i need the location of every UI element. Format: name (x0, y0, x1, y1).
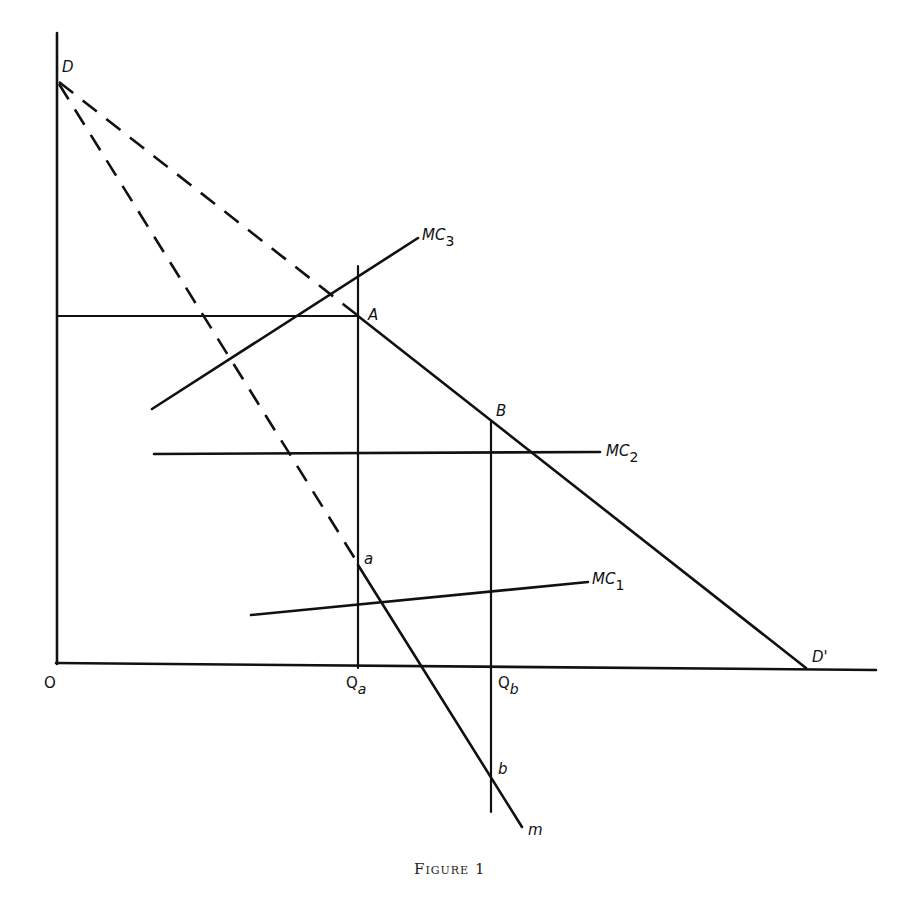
mc1-curve (251, 582, 588, 615)
label-origin: O (44, 676, 56, 691)
label-D-prime: D' (812, 650, 828, 665)
label-Qa: Qa (346, 676, 366, 696)
label-a: a (364, 552, 373, 567)
label-MC2-main: MC (606, 442, 629, 460)
economics-diagram (0, 0, 908, 902)
label-Qb-sub: b (510, 681, 519, 697)
label-b: b (498, 762, 508, 777)
label-Qa-sub: a (358, 681, 367, 697)
label-MC1-main: MC (592, 570, 615, 588)
label-Qa-main: Q (346, 674, 358, 692)
label-A: A (368, 308, 378, 323)
label-MC3: MC3 (422, 228, 454, 248)
label-MC3-main: MC (422, 226, 445, 244)
label-MC2-sub: 2 (629, 449, 638, 465)
label-MC3-sub: 3 (445, 233, 454, 249)
label-Qb: Qb (498, 676, 519, 696)
label-D: D (62, 60, 74, 75)
demand-line-A-to-D-prime (358, 316, 806, 668)
label-Qb-main: Q (498, 674, 510, 692)
label-m: m (528, 823, 543, 838)
label-MC2: MC2 (606, 444, 638, 464)
figure-caption: Figure 1 (414, 860, 485, 878)
dashed-line-D-to-a (59, 84, 357, 562)
label-MC1-sub: 1 (615, 577, 624, 593)
marginal-revenue-line-a-to-m (358, 565, 522, 827)
label-B: B (496, 404, 506, 419)
mc3-curve (152, 238, 418, 409)
dashed-line-D-to-A (59, 82, 357, 315)
label-MC1: MC1 (592, 572, 624, 592)
x-axis (56, 663, 876, 670)
